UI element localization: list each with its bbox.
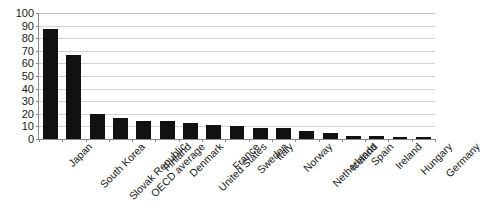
bar-slot <box>342 13 365 139</box>
y-axis-tick-label: 80 <box>22 33 34 44</box>
x-axis-labels-group: JapanSouth KoreaSlovak RepublicOECD aver… <box>38 141 435 211</box>
y-axis-tick-label: 30 <box>22 96 34 107</box>
y-axis-tick-label: 20 <box>22 108 34 119</box>
bar-slot <box>365 13 388 139</box>
bar <box>160 121 175 139</box>
bar-slot <box>86 13 109 139</box>
bar <box>113 118 128 139</box>
bar-slot <box>272 13 295 139</box>
y-axis-tick-label: 100 <box>16 8 34 19</box>
bar-slot <box>109 13 132 139</box>
bar <box>253 128 268 139</box>
x-axis-tick <box>435 139 436 142</box>
bar <box>90 114 105 139</box>
bar <box>416 137 431 139</box>
bar-slot <box>412 13 435 139</box>
bar-slot <box>319 13 342 139</box>
y-axis-tick-label: 50 <box>22 71 34 82</box>
y-axis-tick-label: 10 <box>22 121 34 132</box>
bar-slot <box>62 13 85 139</box>
bar <box>393 137 408 139</box>
bar <box>66 55 81 139</box>
y-axis-tick-label: 90 <box>22 20 34 31</box>
bar-slot <box>202 13 225 139</box>
y-axis-tick-label: 70 <box>22 45 34 56</box>
bar-slot <box>132 13 155 139</box>
y-axis-tick-label: 60 <box>22 58 34 69</box>
bar-slot <box>225 13 248 139</box>
bar <box>230 126 245 139</box>
bar <box>136 121 151 139</box>
bar-slot <box>155 13 178 139</box>
bar <box>369 136 384 139</box>
x-axis-category-label: Japan <box>66 141 94 169</box>
bar-slot <box>179 13 202 139</box>
bar-slot <box>39 13 62 139</box>
plot-area: 0102030405060708090100 <box>38 13 435 140</box>
bar <box>323 133 338 139</box>
y-axis-tick-label: 0 <box>28 134 34 145</box>
x-axis-category-label: Norway <box>301 141 334 174</box>
bar-slot <box>249 13 272 139</box>
bars-group <box>39 13 435 139</box>
bar <box>206 125 221 139</box>
bar <box>299 131 314 139</box>
bar <box>276 128 291 139</box>
bar <box>43 29 58 139</box>
bar-slot <box>388 13 411 139</box>
bar <box>346 136 361 139</box>
bar <box>183 123 198 139</box>
y-axis-tick-label: 40 <box>22 83 34 94</box>
bar-slot <box>295 13 318 139</box>
